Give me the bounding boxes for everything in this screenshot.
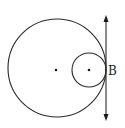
large-circle-center-dot bbox=[55, 69, 58, 72]
large-circle bbox=[8, 19, 106, 117]
arrow-up-icon bbox=[104, 15, 109, 22]
arrow-down-icon bbox=[104, 114, 109, 121]
point-b-label: B bbox=[108, 64, 117, 78]
tangent-circles-diagram: B bbox=[0, 0, 125, 128]
small-circle-center-dot bbox=[88, 69, 91, 72]
